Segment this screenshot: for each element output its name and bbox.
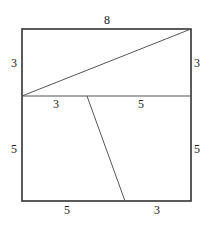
label-right-lower: 5 <box>194 142 200 156</box>
label-left-upper: 3 <box>11 56 17 70</box>
label-right-upper: 3 <box>194 56 200 70</box>
geometry-figure: 8 3 3 3 5 5 5 5 3 <box>0 0 210 227</box>
label-top: 8 <box>104 13 110 27</box>
label-bottom-right: 3 <box>154 203 160 217</box>
label-midline-right: 5 <box>138 97 144 111</box>
label-bottom-left: 5 <box>64 203 70 217</box>
outer-square <box>22 29 191 201</box>
diagonal-line <box>22 29 191 96</box>
slant-line <box>87 96 125 201</box>
label-left-lower: 5 <box>11 142 17 156</box>
label-midline-left: 3 <box>53 97 59 111</box>
